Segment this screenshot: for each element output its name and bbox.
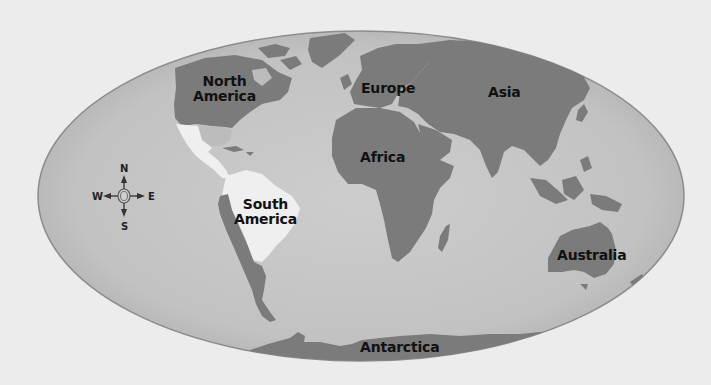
label-asia: Asia bbox=[488, 85, 521, 100]
label-europe: Europe bbox=[361, 81, 415, 96]
compass-south-label: S bbox=[121, 222, 128, 232]
label-australia: Australia bbox=[557, 248, 626, 263]
label-antarctica: Antarctica bbox=[360, 340, 439, 355]
label-south-america-line1: South bbox=[234, 197, 297, 212]
compass-east-label: E bbox=[148, 192, 155, 202]
label-south-america-line2: America bbox=[234, 212, 297, 227]
label-north-america: North America bbox=[193, 74, 256, 104]
label-north-america-line1: North bbox=[193, 74, 256, 89]
world-map bbox=[0, 0, 711, 385]
compass-west-label: W bbox=[92, 192, 103, 202]
label-north-america-line2: America bbox=[193, 89, 256, 104]
label-africa: Africa bbox=[360, 150, 405, 165]
compass-north-label: N bbox=[120, 164, 128, 174]
label-south-america: South America bbox=[234, 197, 297, 227]
